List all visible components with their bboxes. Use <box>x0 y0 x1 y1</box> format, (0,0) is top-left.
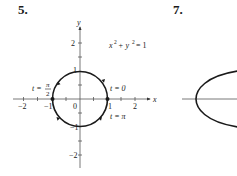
y-tick-1: 1 <box>73 66 77 75</box>
x-tick-neg2: −2 <box>18 102 27 111</box>
y-axis: y 2 1 −1 −2 <box>69 18 82 168</box>
label-pi-numerator: π <box>46 81 50 89</box>
label-t-pi-half: t = <box>32 84 42 93</box>
svg-text:2: 2 <box>132 39 135 45</box>
figure-5-plot: x −2 −1 0 1 2 y 2 1 −1 −2 t = 0 t = π <box>0 0 237 176</box>
label-pi-denominator: 2 <box>46 90 50 98</box>
figure-7-plot <box>182 71 237 127</box>
x-tick-2: 2 <box>133 102 137 111</box>
x-axis: x −2 −1 0 1 2 <box>13 95 157 111</box>
y-tick-2: 2 <box>71 39 75 48</box>
svg-text:x: x <box>108 41 113 50</box>
point-neg1-0 <box>51 97 55 101</box>
x-axis-label: x <box>152 95 157 104</box>
x-tick-0: 0 <box>73 102 77 111</box>
equation: x 2 + y 2 = 1 <box>108 39 147 50</box>
label-t-zero: t = 0 <box>110 84 126 93</box>
x-tick-neg1: −1 <box>44 102 53 111</box>
svg-text:2: 2 <box>114 39 117 45</box>
y-tick-neg2: −2 <box>69 151 78 160</box>
x-tick-1: 1 <box>108 102 112 111</box>
svg-text:+ y: + y <box>118 41 129 50</box>
point-1-0 <box>106 97 110 101</box>
svg-text:= 1: = 1 <box>136 41 147 50</box>
label-t-pi: t = π <box>110 112 127 121</box>
y-axis-label: y <box>76 18 81 27</box>
